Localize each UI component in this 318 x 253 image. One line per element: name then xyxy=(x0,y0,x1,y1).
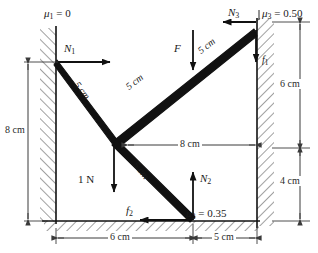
diagram-canvas xyxy=(0,0,318,253)
force-label-f1: f1 xyxy=(262,55,268,67)
friction-label-mu3: μ3 = 0.50 xyxy=(262,8,302,21)
force-label-1N-load: 1 N xyxy=(78,174,94,185)
N2-subscript: 2 xyxy=(207,177,211,186)
statics-free-body-diagram: μ1 = 0 μ3 = 0.50 μ2 = 0.35 N1 N3 N2 f1 f… xyxy=(0,0,318,253)
force-label-N2: N2 xyxy=(200,173,211,186)
floor-hatching xyxy=(42,221,260,231)
force-label-N3: N3 xyxy=(228,7,239,20)
friction-label-mu2: μ2 = 0.35 xyxy=(186,208,226,221)
dimension-label-right-6cm: 6 cm xyxy=(278,79,302,89)
mu1-value: = 0 xyxy=(53,7,70,19)
force-label-F: F xyxy=(174,43,181,54)
dimension-label-left-8cm: 8 cm xyxy=(3,125,27,135)
f2-subscript: 2 xyxy=(129,209,133,218)
force-label-f2: f2 xyxy=(126,205,133,218)
mu3-value: = 0.50 xyxy=(271,7,302,19)
member-long-diagonal-bar xyxy=(116,29,257,147)
force-label-N1: N1 xyxy=(64,43,75,56)
N1-subscript: 1 xyxy=(71,47,75,56)
mu2-value: = 0.35 xyxy=(195,207,226,219)
f1-subscript: 1 xyxy=(265,59,269,67)
member-lower-right-bar xyxy=(112,140,195,222)
left-wall-hatching xyxy=(40,26,56,224)
dimension-label-bottom-5cm: 5 cm xyxy=(212,232,236,242)
friction-label-mu1: μ1 = 0 xyxy=(44,8,71,21)
member-upper-left-bar xyxy=(54,60,118,146)
dimension-label-bottom-6cm: 6 cm xyxy=(108,232,132,242)
dimension-label-right-4cm: 4 cm xyxy=(278,176,302,186)
N3-subscript: 3 xyxy=(235,11,239,20)
dimension-label-mid-8cm: 8 cm xyxy=(178,139,202,149)
right-wall-hatching xyxy=(257,18,274,228)
